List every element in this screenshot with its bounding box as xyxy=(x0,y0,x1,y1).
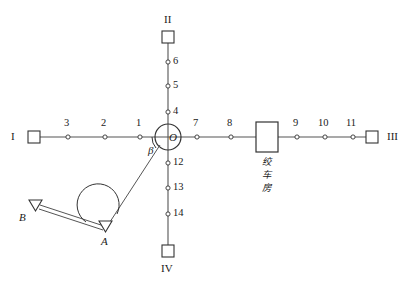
winch-house-char: 房 xyxy=(256,181,278,194)
control-point-label-a: A xyxy=(101,236,108,247)
station-label: 13 xyxy=(173,182,184,193)
winch-house-char: 车 xyxy=(256,168,278,181)
station-label: 8 xyxy=(227,118,232,129)
station-label: 11 xyxy=(346,118,356,129)
branch-label-south: IV xyxy=(161,263,173,274)
control-point-a-triangle xyxy=(99,221,112,232)
station-markers-group xyxy=(66,60,355,216)
station-marker xyxy=(103,135,107,139)
line-a-to-o xyxy=(106,145,160,228)
station-marker xyxy=(166,110,170,114)
station-marker xyxy=(166,212,170,216)
station-marker xyxy=(195,135,199,139)
station-label: 2 xyxy=(101,118,106,129)
station-marker xyxy=(351,135,355,139)
station-marker xyxy=(138,135,142,139)
winch-house-char: 绞 xyxy=(256,155,278,168)
north-terminal-square xyxy=(162,31,174,43)
station-marker xyxy=(166,60,170,64)
station-marker xyxy=(229,135,233,139)
station-marker xyxy=(166,84,170,88)
branch-label-north: II xyxy=(164,14,171,25)
station-label: 3 xyxy=(64,118,69,129)
station-label: 12 xyxy=(173,157,184,168)
control-point-label-b: B xyxy=(19,212,26,223)
station-label: 14 xyxy=(173,208,184,219)
east-terminal-square xyxy=(366,131,378,143)
station-label: 1 xyxy=(136,118,141,129)
station-marker xyxy=(166,186,170,190)
branch-label-east: III xyxy=(387,131,398,142)
center-point-label-o: O xyxy=(169,132,177,143)
station-marker xyxy=(166,161,170,165)
angle-beta-label: β xyxy=(148,145,153,156)
station-marker xyxy=(66,135,70,139)
diagram-canvas-container: I II III IV O β A B 绞 车 房 1 2 3 4 5 6 7 … xyxy=(0,0,406,295)
traverse-diagram-svg xyxy=(0,0,406,295)
station-marker xyxy=(323,135,327,139)
station-label: 4 xyxy=(173,106,178,117)
winch-house-rect xyxy=(256,122,278,152)
baseline-ab-upper xyxy=(40,205,104,226)
branch-label-west: I xyxy=(11,131,15,142)
angle-arc-at-a xyxy=(77,184,119,222)
baseline-ab-group xyxy=(39,205,104,230)
south-terminal-square xyxy=(162,245,174,257)
station-label: 7 xyxy=(193,118,198,129)
winch-house-label: 绞 车 房 xyxy=(256,155,278,194)
station-label: 5 xyxy=(173,80,178,91)
station-label: 6 xyxy=(173,56,178,67)
baseline-ab-lower xyxy=(39,209,103,230)
station-marker xyxy=(295,135,299,139)
station-label: 10 xyxy=(318,118,329,129)
station-label: 9 xyxy=(293,118,298,129)
west-terminal-square xyxy=(28,131,40,143)
